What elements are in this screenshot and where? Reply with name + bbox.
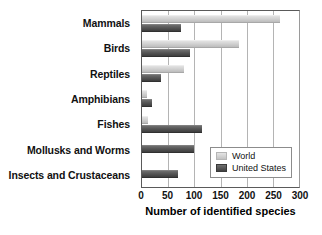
x-tick-label-0: 0 xyxy=(138,190,144,201)
bar-reptiles-united-states xyxy=(142,74,161,82)
category-label-mammals: Mammals xyxy=(0,10,136,35)
legend-label-united-states: United States xyxy=(232,163,286,173)
x-tick-label-150: 150 xyxy=(212,190,229,201)
bar-amphibians-united-states xyxy=(142,99,152,107)
legend-item-united-states: United States xyxy=(216,163,286,173)
bar-row-reptiles xyxy=(142,61,299,86)
x-tick-label-300: 300 xyxy=(292,190,309,201)
bar-amphibians-world xyxy=(142,90,147,98)
bar-birds-world xyxy=(142,40,239,48)
category-label-mollusks-and-worms: Mollusks and Worms xyxy=(0,137,136,162)
x-tick-label-100: 100 xyxy=(186,190,203,201)
x-tick-label-50: 50 xyxy=(162,190,173,201)
x-tick-label-200: 200 xyxy=(239,190,256,201)
bar-fishes-world xyxy=(142,116,148,124)
bar-fishes-united-states xyxy=(142,125,202,133)
category-label-amphibians: Amphibians xyxy=(0,86,136,111)
bar-row-fishes xyxy=(142,112,299,137)
bar-row-amphibians xyxy=(142,86,299,111)
x-axis-title: Number of identified species xyxy=(141,205,300,217)
legend-item-world: World xyxy=(216,151,286,161)
bar-birds-united-states xyxy=(142,49,190,57)
legend-swatch-world-icon xyxy=(216,152,227,160)
bar-reptiles-world xyxy=(142,65,184,73)
bar-mollusks-and-worms-united-states xyxy=(142,145,194,153)
category-label-birds: Birds xyxy=(0,35,136,60)
legend-swatch-united-states-icon xyxy=(216,164,227,172)
category-label-insects-and-crustaceans: Insects and Crustaceans xyxy=(0,163,136,188)
legend-label-world: World xyxy=(232,151,255,161)
x-axis-ticks: 050100150200250300 xyxy=(141,190,300,204)
x-tick-label-250: 250 xyxy=(265,190,282,201)
bar-mammals-world xyxy=(142,15,280,23)
bar-row-mammals xyxy=(142,11,299,36)
category-label-reptiles: Reptiles xyxy=(0,61,136,86)
chart-legend: World United States xyxy=(210,147,292,178)
bar-insects-and-crustaceans-united-states xyxy=(142,170,178,178)
category-label-fishes: Fishes xyxy=(0,112,136,137)
category-axis-labels: Mammals Birds Reptiles Amphibians Fishes… xyxy=(0,10,136,188)
species-bar-chart: Mammals Birds Reptiles Amphibians Fishes… xyxy=(0,0,322,235)
bar-mammals-united-states xyxy=(142,24,181,32)
bar-row-birds xyxy=(142,36,299,61)
